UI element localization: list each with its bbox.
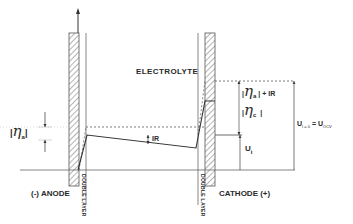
cell-voltage-label: Ui [245,145,252,155]
cathode-eta-a-plus-ir-label: |ηa | + IR [242,84,275,99]
u-i-subscript: i [251,149,253,155]
eta-a-subscript: a [253,93,256,99]
cathode-overpotential-label: |ηc | [242,103,262,118]
eta-c-subscript: c [253,112,256,118]
eta-symbol: η [244,82,253,100]
cathode-label: CATHODE (+) [219,190,270,198]
u-i0-subscript: I = 0 [302,124,310,129]
cathode-electrode [205,33,215,186]
bar-close: | [260,109,262,116]
double-layer-left-label: DOUBLE LAYER [81,174,86,217]
anode-label: (-) ANODE [31,190,70,198]
ocv-arrow [293,81,296,170]
ocv-label: UI = 0 = UOCV [297,120,332,129]
bar-close: | [25,128,28,138]
anode-overpotential-label: |ηa| [10,124,27,140]
eta-symbol: η [13,122,22,140]
u-ocv-subscript: OCV [323,124,332,129]
electrolyte-label: ELECTROLYTE [136,68,198,76]
anode-electrode [69,33,79,186]
cathode-eta-arrows [238,81,241,135]
arrow-up-icon [76,8,80,33]
ir-label: IR [152,135,159,142]
plus-ir-text: | + IR [258,90,275,97]
eta-symbol: η [244,101,253,119]
equals-sign: = [312,120,316,127]
ui-arrow [239,135,242,170]
double-layer-right-label: DOUBLE LAYER [200,174,205,217]
potential-profile [78,101,215,170]
anode-eta-arrows [38,112,52,152]
